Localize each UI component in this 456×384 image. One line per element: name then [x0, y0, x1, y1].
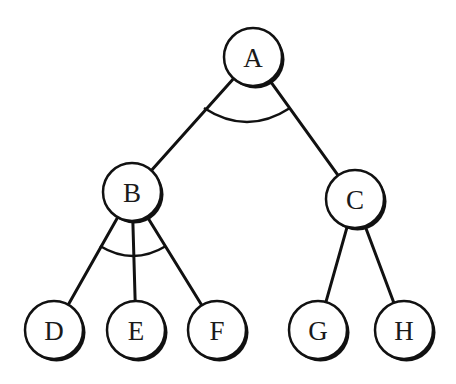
and-arc-a [204, 108, 290, 122]
edge-a-b [151, 79, 233, 171]
edge-c-h [365, 226, 394, 303]
and-or-tree-diagram: ABCDEFGH [0, 0, 456, 384]
edge-c-g [326, 227, 347, 302]
node-label: C [346, 185, 364, 215]
node-g: G [289, 301, 350, 362]
node-label: B [123, 178, 141, 208]
node-h: H [375, 301, 436, 362]
node-label: E [128, 316, 145, 346]
node-label: A [243, 43, 263, 73]
edge-b-e [133, 221, 135, 301]
node-label: H [394, 316, 414, 346]
node-a: A [224, 28, 285, 89]
node-label: G [308, 316, 328, 346]
node-label: F [209, 316, 224, 346]
node-c: C [326, 170, 387, 231]
edge-b-f [147, 217, 202, 306]
edge-a-c [270, 81, 338, 176]
node-e: E [107, 301, 168, 362]
node-d: D [25, 301, 86, 362]
node-f: F [188, 301, 249, 362]
node-label: D [44, 316, 64, 346]
nodes-layer: ABCDEFGH [25, 28, 436, 362]
edge-b-d [68, 217, 117, 305]
node-b: B [103, 163, 164, 224]
